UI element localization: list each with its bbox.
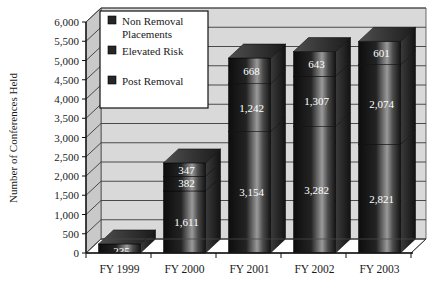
y-tick-label: 3,500 bbox=[54, 112, 79, 124]
bar-segment-side bbox=[336, 113, 351, 253]
y-tick-label: 1,000 bbox=[54, 209, 79, 221]
x-tick-label: FY 2002 bbox=[294, 263, 334, 275]
bar-value-label: 1,307 bbox=[304, 95, 329, 107]
x-tick-label: FY 2000 bbox=[164, 263, 204, 275]
y-axis-title-text: Number of Conferences Held bbox=[7, 73, 19, 203]
bar-segment-side bbox=[401, 130, 416, 253]
chart-legend: Non RemovalPlacementsElevated RiskPost R… bbox=[100, 11, 208, 108]
bar-value-label: 643 bbox=[308, 58, 325, 70]
bar-value-label: 3,154 bbox=[239, 186, 264, 198]
y-tick-label: 4,500 bbox=[54, 74, 79, 86]
y-tick-label: 5,000 bbox=[54, 55, 79, 67]
legend-swatch bbox=[108, 76, 116, 84]
plot-floor bbox=[86, 239, 426, 253]
legend-label-line2: Placements bbox=[122, 28, 172, 40]
legend-swatch bbox=[108, 16, 116, 24]
y-axis-title: Number of Conferences Held bbox=[7, 73, 19, 203]
legend-swatch bbox=[108, 46, 116, 54]
bar-value-label: 2,074 bbox=[369, 98, 394, 110]
legend-label: Elevated Risk bbox=[122, 45, 184, 57]
chart-container: 05001,0001,5002,0002,5003,0003,5004,0004… bbox=[0, 0, 448, 288]
stacked-column-chart: 05001,0001,5002,0002,5003,0003,5004,0004… bbox=[0, 0, 448, 288]
y-tick-label: 4,000 bbox=[54, 93, 79, 105]
bar-value-label: 668 bbox=[243, 65, 260, 77]
y-tick-label: 3,000 bbox=[54, 132, 79, 144]
bar-value-label: 1,242 bbox=[239, 102, 264, 114]
x-tick-label: FY 1999 bbox=[99, 263, 139, 275]
bar-value-label: 347 bbox=[178, 164, 195, 176]
x-tick-label: FY 2001 bbox=[229, 263, 269, 275]
y-tick-label: 2,500 bbox=[54, 151, 79, 163]
legend-label: Post Removal bbox=[122, 75, 183, 87]
bar-value-label: 601 bbox=[373, 47, 390, 59]
y-tick-label: 5,500 bbox=[54, 35, 79, 47]
y-tick-label: 2,000 bbox=[54, 170, 79, 182]
y-tick-label: 500 bbox=[63, 228, 80, 240]
bar-value-label: 382 bbox=[178, 177, 195, 189]
y-tick-label: 0 bbox=[74, 247, 80, 259]
bar-segment-side bbox=[271, 118, 286, 253]
legend-label: Non Removal bbox=[122, 15, 183, 27]
y-tick-label: 1,500 bbox=[54, 189, 79, 201]
floor-plane bbox=[86, 239, 426, 253]
bar-segment-side bbox=[401, 51, 416, 145]
bar-value-label: 2,821 bbox=[369, 193, 394, 205]
bar-column bbox=[359, 27, 416, 253]
bar-value-label: 3,282 bbox=[304, 184, 329, 196]
bar-value-label: 1,611 bbox=[174, 216, 198, 228]
x-tick-label: FY 2003 bbox=[359, 263, 399, 275]
y-tick-label: 6,000 bbox=[54, 16, 79, 28]
